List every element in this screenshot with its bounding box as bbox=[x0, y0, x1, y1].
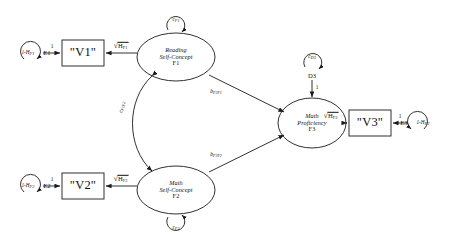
edge-f1-v1-loading-label: √HF1 bbox=[114, 42, 129, 50]
latent-f1-label: Reading Self-Concept F1 bbox=[159, 47, 192, 67]
observed-v2-label: "V2" bbox=[70, 179, 96, 192]
error-e1-variance-label: 1-HF1 bbox=[22, 50, 35, 56]
error-e3-label: E3 bbox=[400, 120, 407, 127]
disturbance-d3-label: D3 bbox=[308, 73, 316, 80]
error-e1-label: E1 bbox=[43, 50, 50, 57]
sem-path-diagram: Reading Self-Concept F1 Math Self-Concep… bbox=[0, 0, 449, 246]
c-f2-loop-label: cF2 bbox=[172, 225, 179, 231]
edge-d3-f3-label: 1 bbox=[316, 85, 319, 91]
edge-e3-v3-label: 1 bbox=[399, 114, 402, 120]
edge-e1-v1-label: 1 bbox=[51, 44, 54, 50]
error-e2-variance-label: 1-HF2 bbox=[22, 183, 35, 189]
edge-f1-f2-covariance bbox=[133, 76, 153, 171]
c-f1-loop-label: cF1 bbox=[172, 17, 179, 23]
latent-f3-label: Math Proficiency F3 bbox=[297, 113, 326, 133]
error-e2-label: E2 bbox=[43, 183, 50, 190]
edge-f2-v2-loading-label: √HF2 bbox=[114, 175, 129, 183]
edge-f1-f3-coefficient-label: bF3F1 bbox=[210, 89, 222, 95]
observed-v1-label: "V1" bbox=[70, 46, 96, 59]
error-e3-variance-label: 1-HF3 bbox=[417, 120, 430, 126]
edge-f3-v3-loading-label: √HF3 bbox=[324, 112, 339, 120]
observed-v3-label: "V3" bbox=[357, 116, 383, 129]
c-d3-loop-label: cD3 bbox=[308, 54, 316, 60]
latent-f2-label: Math Self-Concept F2 bbox=[159, 180, 192, 200]
edge-e2-v2-label: 1 bbox=[51, 177, 54, 183]
edge-f2-f3-coefficient-label: bF3F2 bbox=[210, 152, 222, 158]
